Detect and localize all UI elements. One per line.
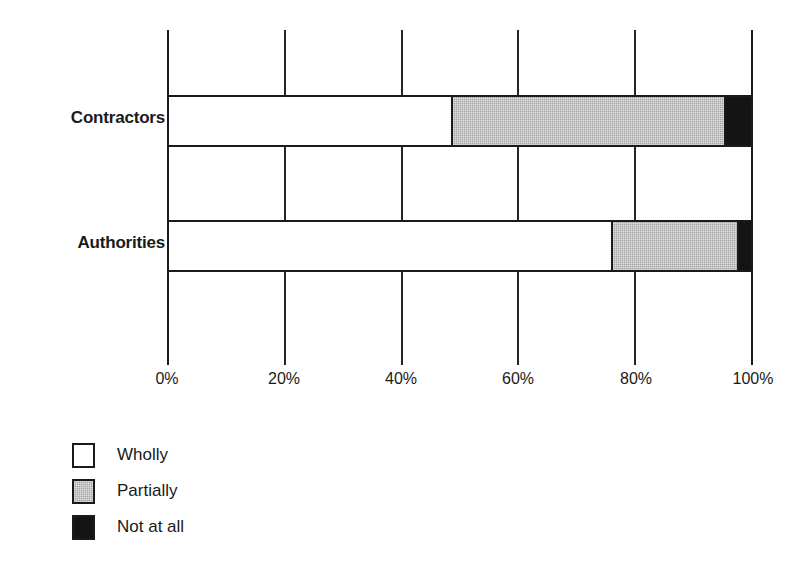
bar-segment-not-at-all	[737, 222, 751, 270]
legend-item-wholly: Wholly	[72, 437, 184, 473]
xtick-label-100: 100%	[718, 370, 788, 388]
category-label-contractors: Contractors	[30, 108, 165, 128]
bar-segment-wholly	[169, 97, 451, 145]
legend-swatch-partially-icon	[72, 479, 95, 504]
bar-segment-wholly	[169, 222, 611, 270]
gridline-100	[751, 30, 753, 365]
gridline-60	[517, 30, 519, 365]
legend-item-not-at-all: Not at all	[72, 509, 184, 545]
xtick-label-0: 0%	[132, 370, 202, 388]
gridline-40	[401, 30, 403, 365]
legend-swatch-not-at-all-icon	[72, 515, 95, 540]
xtick-label-60: 60%	[483, 370, 553, 388]
bar-contractors	[167, 95, 753, 147]
bar-segment-not-at-all	[724, 97, 751, 145]
category-label-authorities: Authorities	[30, 233, 165, 253]
bar-chart: Contractors Authorities 0% 20% 40% 60% 8…	[0, 0, 812, 576]
gridline-0	[167, 30, 169, 365]
legend: Wholly Partially Not at all	[72, 437, 184, 545]
xtick-label-80: 80%	[601, 370, 671, 388]
legend-swatch-wholly-icon	[72, 443, 95, 468]
legend-label-wholly: Wholly	[117, 445, 168, 465]
gridline-20	[284, 30, 286, 365]
legend-item-partially: Partially	[72, 473, 184, 509]
xtick-label-40: 40%	[366, 370, 436, 388]
plot-area	[167, 30, 753, 365]
bar-segment-partially	[451, 97, 724, 145]
bar-segment-partially	[611, 222, 737, 270]
xtick-label-20: 20%	[249, 370, 319, 388]
bar-authorities	[167, 220, 753, 272]
gridline-80	[634, 30, 636, 365]
legend-label-partially: Partially	[117, 481, 177, 501]
legend-label-not-at-all: Not at all	[117, 517, 184, 537]
